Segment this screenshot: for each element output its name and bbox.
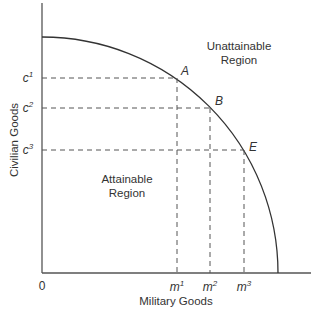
point-a-label: A — [180, 64, 189, 78]
ppf-curve — [42, 37, 278, 273]
c2-label: c2 — [23, 100, 34, 115]
unattainable-label-1: Unattainable — [207, 40, 272, 52]
m2-label: m2 — [203, 279, 218, 294]
point-e-label: E — [249, 140, 258, 154]
x-axis-title: Military Goods — [139, 295, 213, 307]
unattainable-label-2: Region — [221, 54, 257, 66]
m1-label: m1 — [170, 279, 184, 294]
m3-label: m3 — [237, 279, 252, 294]
point-b-label: B — [215, 94, 223, 108]
c3-label: c3 — [23, 142, 34, 157]
c1-label: c1 — [23, 70, 33, 85]
ppf-diagram: Unattainable Region Attainable Region A … — [0, 0, 316, 311]
origin-label: 0 — [39, 279, 46, 293]
y-axis-title: Civilian Goods — [8, 103, 20, 177]
attainable-label-2: Region — [109, 187, 145, 199]
attainable-label-1: Attainable — [101, 173, 152, 185]
